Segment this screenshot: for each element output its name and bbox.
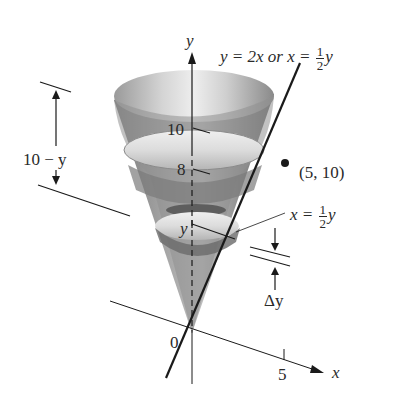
delta-y-label: Δy bbox=[264, 292, 283, 309]
line-equation-fraction: 12 bbox=[316, 45, 325, 72]
y-tick-8: 8 bbox=[177, 161, 186, 178]
cone-diagram bbox=[0, 0, 397, 408]
frac-num: 1 bbox=[319, 203, 328, 217]
frac-den: 2 bbox=[317, 59, 324, 72]
radius-equation-fraction: 12 bbox=[319, 203, 328, 230]
y-tick-10: 10 bbox=[167, 121, 184, 138]
radius-equation: x = 12y bbox=[290, 203, 336, 230]
origin-label: 0 bbox=[170, 334, 179, 351]
line-equation-rhs: y bbox=[325, 47, 333, 66]
slice-height-label: y bbox=[180, 220, 188, 237]
line-equation: y = 2x or x = 12y bbox=[220, 45, 333, 72]
delta-y-bracket bbox=[250, 228, 290, 290]
radius-equation-lhs: x = bbox=[290, 205, 313, 224]
frac-num: 1 bbox=[316, 45, 325, 59]
y-axis-label: y bbox=[186, 32, 194, 49]
frac-den: 2 bbox=[320, 217, 327, 230]
radius-equation-rhs: y bbox=[328, 205, 336, 224]
point-label: (5, 10) bbox=[299, 164, 344, 181]
depth-label: 10 − y bbox=[23, 151, 67, 168]
x-tick-5: 5 bbox=[278, 366, 287, 383]
line-equation-lhs: y = 2x or x = bbox=[220, 47, 310, 66]
x-axis-label: x bbox=[332, 364, 340, 381]
cone-surface bbox=[114, 70, 274, 333]
